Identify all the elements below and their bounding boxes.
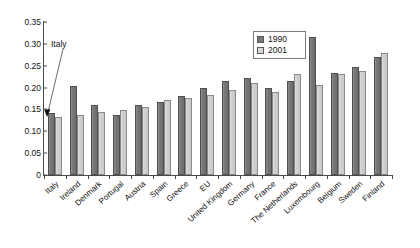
bar-2001 xyxy=(229,90,236,175)
bar-2001 xyxy=(207,95,214,175)
bar-2001 xyxy=(359,71,366,175)
bar-1990 xyxy=(287,81,294,175)
y-tick-label: 0.30 xyxy=(24,40,41,49)
bar-group xyxy=(178,22,192,175)
bar-2001 xyxy=(185,98,192,175)
bar-2001 xyxy=(77,115,84,175)
y-tick-label: 0.25 xyxy=(24,61,41,70)
bar-group xyxy=(352,22,366,175)
legend-swatch-2001-icon xyxy=(257,47,264,54)
bar-group xyxy=(200,22,214,175)
bar-group xyxy=(91,22,105,175)
bar-group xyxy=(222,22,236,175)
y-tick-mark xyxy=(43,109,47,110)
y-tick-label: 0 xyxy=(36,171,41,180)
bar-chart: 00.050.100.150.200.250.300.35 ItalyIrela… xyxy=(0,0,420,248)
bar-2001 xyxy=(164,100,171,175)
y-axis-ticks: 00.050.100.150.200.250.300.35 xyxy=(0,0,41,248)
plot-area xyxy=(44,22,392,175)
bar-1990 xyxy=(374,57,381,175)
bar-1990 xyxy=(352,67,359,175)
y-tick-mark xyxy=(43,65,47,66)
legend-item-1990: 1990 xyxy=(257,34,302,45)
y-tick-mark xyxy=(43,87,47,88)
y-tick-label: 0.20 xyxy=(24,83,41,92)
bar-2001 xyxy=(55,117,62,175)
y-tick-label: 0.05 xyxy=(24,149,41,158)
bar-1990 xyxy=(48,113,55,175)
bar-group xyxy=(157,22,171,175)
bar-1990 xyxy=(70,86,77,175)
italy-annotation-label: Italy xyxy=(51,40,67,49)
bar-group xyxy=(70,22,84,175)
bar-2001 xyxy=(98,112,105,175)
legend-swatch-1990-icon xyxy=(257,36,264,43)
legend-label-2001: 2001 xyxy=(268,46,287,55)
x-tick-label-text: Italy xyxy=(44,180,60,196)
legend-item-2001: 2001 xyxy=(257,45,302,56)
legend-label-1990: 1990 xyxy=(268,35,287,44)
y-tick-mark xyxy=(43,43,47,44)
y-tick-mark xyxy=(43,131,47,132)
x-tick-mark xyxy=(44,175,45,179)
bar-group xyxy=(135,22,149,175)
bar-1990 xyxy=(222,81,229,175)
y-tick-label: 0.10 xyxy=(24,127,41,136)
chart-legend: 1990 2001 xyxy=(253,31,306,59)
bar-2001 xyxy=(381,53,388,175)
bar-group xyxy=(309,22,323,175)
y-tick-label: 0.15 xyxy=(24,105,41,114)
x-tick-label-text: EU xyxy=(199,180,213,193)
bar-2001 xyxy=(294,74,301,175)
bar-1990 xyxy=(309,37,316,175)
y-tick-mark xyxy=(43,175,47,176)
y-tick-label: 0.35 xyxy=(24,18,41,27)
bar-1990 xyxy=(178,96,185,175)
y-tick-mark xyxy=(43,22,47,23)
bar-group xyxy=(374,22,388,175)
bar-group xyxy=(113,22,127,175)
y-tick-mark xyxy=(43,153,47,154)
